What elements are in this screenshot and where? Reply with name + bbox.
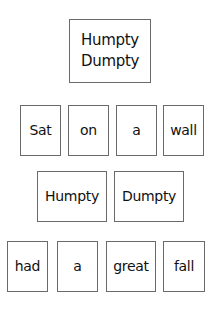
word-label: a [132, 121, 140, 140]
word-label: had [15, 257, 40, 276]
word-card-humpty[interactable]: Humpty [37, 171, 107, 222]
word-card-wall[interactable]: wall [163, 105, 204, 156]
word-card-on[interactable]: on [68, 105, 109, 156]
word-label: wall [170, 121, 197, 140]
word-card-a[interactable]: a [116, 105, 157, 156]
word-card-sat[interactable]: Sat [20, 105, 61, 156]
word-label: Humpty [45, 187, 99, 206]
word-card-fall[interactable]: fall [163, 241, 205, 292]
word-label: a [73, 257, 81, 276]
title-card: Humpty Dumpty [69, 19, 151, 83]
word-label: fall [174, 257, 194, 276]
title-line-2: Dumpty [81, 51, 139, 72]
word-label: Sat [29, 121, 51, 140]
word-label: great [113, 257, 149, 276]
word-card-had[interactable]: had [7, 241, 48, 292]
word-card-dumpty[interactable]: Dumpty [114, 171, 184, 222]
word-card-a-2[interactable]: a [57, 241, 98, 292]
title-line-1: Humpty [81, 30, 139, 51]
word-label: Dumpty [122, 187, 176, 206]
word-card-great[interactable]: great [106, 241, 156, 292]
word-label: on [80, 121, 97, 140]
